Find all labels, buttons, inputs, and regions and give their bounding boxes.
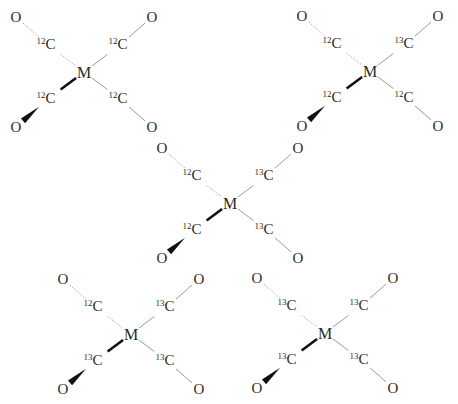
bond-line <box>302 315 317 327</box>
isotope-mass: 12 <box>322 35 331 45</box>
bond-line <box>370 368 386 382</box>
carbon-atom-label-tl: 12C <box>182 168 201 185</box>
wedge-bond <box>68 369 86 385</box>
bond-line <box>176 369 192 383</box>
carbon-symbol: C <box>164 298 174 314</box>
carbon-symbol: C <box>358 297 368 313</box>
oxygen-atom-label-tl: O <box>11 10 22 25</box>
oxygen-atom-label-tr: O <box>194 272 205 287</box>
bond-line <box>176 285 192 299</box>
carbon-atom-label-br: 13C <box>254 222 273 239</box>
oxygen-atom-label-bl: O <box>252 381 263 396</box>
carbon-symbol: C <box>164 352 174 368</box>
isotope-mass: 12 <box>83 298 92 308</box>
isotope-mass: 13 <box>254 167 263 177</box>
bond-line <box>275 238 291 252</box>
carbon-atom-label-br: 13C <box>349 352 368 369</box>
bond-line <box>347 77 362 89</box>
isotope-mass: 13 <box>349 297 358 307</box>
bond-line <box>370 284 386 298</box>
carbon-symbol: C <box>263 221 273 237</box>
carbon-symbol: C <box>331 89 341 105</box>
wedge-bond <box>167 238 185 254</box>
bond-line <box>415 106 431 120</box>
wedge-bond <box>307 106 325 122</box>
bond-line <box>108 340 123 352</box>
bond-line <box>333 315 348 327</box>
isotope-mass: 13 <box>155 298 164 308</box>
bond-line <box>61 78 76 90</box>
carbon-atom-label-tr: 12C <box>108 37 127 54</box>
oxygen-atom-label-bl: O <box>297 119 308 134</box>
oxygen-atom-label-br: O <box>293 251 304 266</box>
isotope-mass: 13 <box>277 351 286 361</box>
carbon-atom-label-tl: 12C <box>322 36 341 53</box>
bond-line <box>238 185 253 197</box>
oxygen-atom-label-bl: O <box>11 120 22 135</box>
carbon-symbol: C <box>263 167 273 183</box>
bond-line <box>347 53 362 65</box>
isotope-mass: 13 <box>277 297 286 307</box>
bond-line <box>129 107 145 121</box>
isotope-mass: 12 <box>108 90 117 100</box>
carbon-symbol: C <box>403 89 413 105</box>
carbon-atom-label-tr: 13C <box>394 36 413 53</box>
bond-line <box>333 339 348 351</box>
metal-atom-label: M <box>223 196 237 211</box>
bond-line <box>378 53 393 65</box>
carbon-symbol: C <box>92 352 102 368</box>
bond-line <box>129 23 145 37</box>
isotope-mass: 13 <box>254 221 263 231</box>
bond-line <box>139 340 154 352</box>
bond-line <box>139 316 154 328</box>
oxygen-atom-label-tl: O <box>157 141 168 156</box>
carbon-symbol: C <box>286 351 296 367</box>
bond-line <box>108 316 123 328</box>
metal-atom-label: M <box>77 65 91 80</box>
wedge-bond <box>262 368 280 384</box>
oxygen-atom-label-bl: O <box>157 251 168 266</box>
isotope-mass: 13 <box>155 352 164 362</box>
oxygen-atom-label-tr: O <box>293 141 304 156</box>
bond-line <box>207 185 222 197</box>
carbon-symbol: C <box>117 36 127 52</box>
carbon-atom-label-bl: 12C <box>182 222 201 239</box>
carbon-symbol: C <box>191 167 201 183</box>
isotope-mass: 13 <box>83 352 92 362</box>
carbon-atom-label-tr: 13C <box>155 299 174 316</box>
carbon-symbol: C <box>403 35 413 51</box>
carbon-atom-label-tr: 13C <box>349 298 368 315</box>
carbon-atom-label-bl: 13C <box>83 353 102 370</box>
isotope-mass: 13 <box>349 351 358 361</box>
oxygen-atom-label-bl: O <box>58 382 69 397</box>
bond-line <box>61 54 76 66</box>
metal-atom-label: M <box>124 327 138 342</box>
diagram-canvas: M O O O O 12C 12C 12C 12C M O O O O 12C … <box>0 0 458 404</box>
carbon-atom-label-br: 13C <box>155 353 174 370</box>
carbon-symbol: C <box>286 297 296 313</box>
metal-atom-label: M <box>363 64 377 79</box>
oxygen-atom-label-tl: O <box>252 271 263 286</box>
carbon-symbol: C <box>45 90 55 106</box>
oxygen-atom-label-tl: O <box>297 9 308 24</box>
carbon-atom-label-tl: 12C <box>83 299 102 316</box>
isotope-mass: 12 <box>322 89 331 99</box>
bond-line <box>415 22 431 36</box>
isotope-mass: 12 <box>182 221 191 231</box>
carbon-symbol: C <box>117 90 127 106</box>
oxygen-atom-label-tr: O <box>388 271 399 286</box>
oxygen-atom-label-tr: O <box>147 10 158 25</box>
bond-line <box>92 54 107 66</box>
oxygen-atom-label-br: O <box>388 381 399 396</box>
isotope-mass: 12 <box>182 167 191 177</box>
carbon-atom-label-bl: 12C <box>322 90 341 107</box>
bond-line <box>238 209 253 221</box>
bond-line <box>378 77 393 89</box>
oxygen-atom-label-br: O <box>194 382 205 397</box>
oxygen-atom-label-br: O <box>433 119 444 134</box>
isotope-mass: 12 <box>36 90 45 100</box>
carbon-atom-label-bl: 13C <box>277 352 296 369</box>
carbon-atom-label-tl: 12C <box>36 37 55 54</box>
isotope-mass: 12 <box>108 36 117 46</box>
bond-line <box>92 78 107 90</box>
